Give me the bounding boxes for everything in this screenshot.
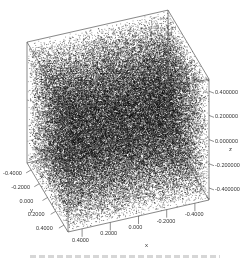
y-tick: 0.000 — [20, 199, 34, 205]
z-tick: 0.200000 — [215, 114, 238, 120]
y-tick: 0.4000 — [36, 226, 53, 232]
x-tick: -0.2000 — [157, 219, 176, 225]
point-cloud-plot — [0, 0, 245, 259]
z-tick: 0.400000 — [215, 90, 238, 96]
x-tick: 0.2000 — [100, 231, 117, 237]
z-tick: -0.400000 — [215, 187, 240, 193]
z-tick: 0.000000 — [215, 139, 238, 145]
figure-caption — [30, 252, 220, 259]
y-tick: -0.4000 — [3, 171, 22, 177]
y-tick: 0.2000 — [28, 212, 45, 218]
z-axis-label: z — [229, 146, 232, 152]
x-tick: -0.4000 — [185, 212, 204, 218]
y-axis-label: y — [30, 207, 33, 213]
z-tick: -0.200000 — [215, 163, 240, 169]
x-tick: 0.000 — [129, 225, 143, 231]
y-tick: -0.2000 — [11, 185, 30, 191]
x-axis-label: x — [145, 242, 148, 248]
x-tick: 0.4000 — [72, 238, 89, 244]
